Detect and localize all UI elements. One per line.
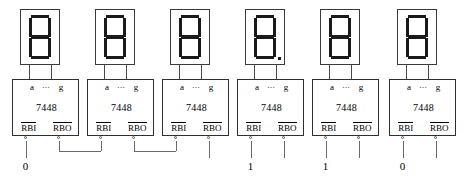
segment-c-4 bbox=[273, 38, 276, 57]
pin-label-ellipsis-4: ⋯ bbox=[265, 83, 279, 92]
rbi-label-wrap-1: RBI bbox=[21, 122, 36, 133]
figure-canvas: a⋯g7448RBIRBOa⋯g7448RBIRBOa⋯g7448RBIRBOa… bbox=[0, 0, 463, 181]
rbi-value-label-4: 1 bbox=[241, 160, 261, 172]
rbi-label-4: RBI bbox=[246, 122, 261, 133]
segment-group-4 bbox=[253, 15, 277, 59]
rbi-pin-2[interactable] bbox=[99, 136, 102, 139]
pin-label-g-2: g bbox=[129, 82, 144, 92]
chip-rb-pin-labels-2: RBIRBO bbox=[88, 122, 155, 133]
segment-g-5 bbox=[331, 35, 349, 38]
chip-part-number-1: 7448 bbox=[13, 102, 80, 113]
rbo-label-3: RBO bbox=[203, 122, 222, 133]
pin-label-ellipsis-1: ⋯ bbox=[40, 83, 54, 92]
chip-input-pin-labels-4: a⋯g bbox=[238, 82, 305, 92]
pin-label-g-6: g bbox=[431, 82, 446, 92]
segment-d-6 bbox=[408, 56, 426, 59]
chip-input-pin-labels-3: a⋯g bbox=[163, 82, 230, 92]
rbo-pin-5[interactable] bbox=[357, 136, 360, 139]
segment-group-5 bbox=[328, 15, 352, 59]
seven-segment-display-3 bbox=[170, 9, 210, 65]
wire-unit4-rbi-input bbox=[251, 141, 252, 158]
rbi-label-1: RBI bbox=[21, 122, 36, 133]
pin-label-a-1: a bbox=[25, 82, 40, 92]
segment-b-6 bbox=[425, 18, 428, 37]
pin-label-a-3: a bbox=[175, 82, 190, 92]
segment-group-1 bbox=[28, 15, 52, 59]
decoder-chip-5: a⋯g7448RBIRBO bbox=[312, 79, 379, 136]
segment-e-1 bbox=[29, 38, 32, 57]
segment-e-5 bbox=[329, 38, 332, 57]
chip-rb-pin-labels-6: RBIRBO bbox=[390, 122, 457, 133]
rbi-label-wrap-5: RBI bbox=[321, 122, 336, 133]
rbi-pin-3[interactable] bbox=[174, 136, 177, 139]
rbo-pin-4[interactable] bbox=[282, 136, 285, 139]
rbo-label-wrap-2: RBO bbox=[128, 122, 147, 133]
pin-label-ellipsis-2: ⋯ bbox=[115, 83, 129, 92]
wire-unit4-rbo-stub bbox=[284, 141, 285, 158]
chip-input-pin-labels-1: a⋯g bbox=[13, 82, 80, 92]
chip-rb-pin-labels-3: RBIRBO bbox=[163, 122, 230, 133]
chip-input-pin-labels-5: a⋯g bbox=[313, 82, 380, 92]
segment-g-4 bbox=[256, 35, 274, 38]
decoder-chip-1: a⋯g7448RBIRBO bbox=[12, 79, 79, 136]
decoder-unit-5: a⋯g7448RBIRBO bbox=[300, 0, 380, 181]
chip-part-number-4: 7448 bbox=[238, 102, 305, 113]
segment-g-2 bbox=[106, 35, 124, 38]
rbo-pin-1[interactable] bbox=[57, 136, 60, 139]
pin-label-a-6: a bbox=[402, 82, 417, 92]
segment-a-5 bbox=[331, 15, 349, 18]
wire-unit6-rbi-input bbox=[403, 141, 404, 158]
segment-group-2 bbox=[103, 15, 127, 59]
segment-g-6 bbox=[408, 35, 426, 38]
chip-rb-pin-labels-1: RBIRBO bbox=[13, 122, 80, 133]
chip-input-pin-labels-6: a⋯g bbox=[390, 82, 457, 92]
display-lead-left-3 bbox=[179, 65, 180, 79]
segment-f-5 bbox=[329, 18, 332, 37]
segment-group-6 bbox=[405, 15, 429, 59]
segment-c-2 bbox=[123, 38, 126, 57]
seven-segment-display-5 bbox=[320, 9, 360, 65]
rbi-label-3: RBI bbox=[171, 122, 186, 133]
rbi-label-wrap-2: RBI bbox=[96, 122, 111, 133]
wire-rbi2-down bbox=[101, 141, 102, 151]
rbi-label-wrap-3: RBI bbox=[171, 122, 186, 133]
rbi-value-label-6: 0 bbox=[393, 160, 413, 172]
decimal-point-4 bbox=[278, 57, 281, 60]
rbo-pin-3[interactable] bbox=[207, 136, 210, 139]
segment-e-4 bbox=[254, 38, 257, 57]
segment-d-5 bbox=[331, 56, 349, 59]
chip-part-number-6: 7448 bbox=[390, 102, 457, 113]
rbi-pin-6[interactable] bbox=[401, 136, 404, 139]
seven-segment-display-1 bbox=[20, 9, 60, 65]
pin-label-g-3: g bbox=[204, 82, 219, 92]
decoder-chip-2: a⋯g7448RBIRBO bbox=[87, 79, 154, 136]
segment-g-3 bbox=[181, 35, 199, 38]
rbo-label-1: RBO bbox=[53, 122, 72, 133]
chip-part-number-5: 7448 bbox=[313, 102, 380, 113]
display-lead-left-1 bbox=[29, 65, 30, 79]
display-lead-right-4 bbox=[276, 65, 277, 79]
display-lead-left-4 bbox=[254, 65, 255, 79]
segment-a-3 bbox=[181, 15, 199, 18]
segment-a-2 bbox=[106, 15, 124, 18]
rbi-pin-1[interactable] bbox=[24, 136, 27, 139]
segment-c-6 bbox=[425, 38, 428, 57]
pin-label-g-4: g bbox=[279, 82, 294, 92]
rbo-pin-2[interactable] bbox=[132, 136, 135, 139]
seven-segment-display-2 bbox=[95, 9, 135, 65]
segment-g-1 bbox=[31, 35, 49, 38]
decoder-unit-3: a⋯g7448RBIRBO bbox=[150, 0, 230, 181]
pin-label-g-1: g bbox=[54, 82, 69, 92]
rbo-pin-6[interactable] bbox=[434, 136, 437, 139]
segment-c-3 bbox=[198, 38, 201, 57]
segment-e-3 bbox=[179, 38, 182, 57]
chip-part-number-2: 7448 bbox=[88, 102, 155, 113]
pin-label-g-5: g bbox=[354, 82, 369, 92]
rbo-label-6: RBO bbox=[430, 122, 449, 133]
rbo-label-wrap-3: RBO bbox=[203, 122, 222, 133]
rbi-pin-4[interactable] bbox=[249, 136, 252, 139]
display-lead-right-3 bbox=[201, 65, 202, 79]
segment-f-3 bbox=[179, 18, 182, 37]
display-lead-right-5 bbox=[351, 65, 352, 79]
rbi-pin-5[interactable] bbox=[324, 136, 327, 139]
